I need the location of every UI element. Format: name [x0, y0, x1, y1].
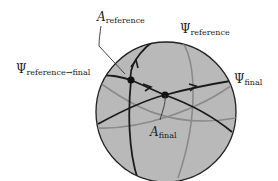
sphere [96, 42, 236, 181]
label-a-reference: Areference [96, 10, 145, 25]
sphere-diagram: Areference Ψreference Ψreference→final Ψ… [0, 0, 278, 181]
label-psi-reference-to-final: Ψreference→final [16, 62, 91, 77]
label-psi-final: Ψfinal [234, 72, 263, 87]
point-a-reference [127, 76, 134, 83]
label-psi-reference: Ψreference [180, 22, 230, 37]
